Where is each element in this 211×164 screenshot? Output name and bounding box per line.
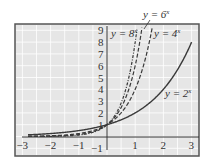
label-8x: y = 8x [110,27,138,39]
y-tick-label: 6 [98,60,104,72]
x-tick-label: −2 [45,139,57,151]
x-tick-label: 1 [132,139,138,151]
y-tick-label: 7 [98,48,104,60]
label-6x: y = 6x [142,8,170,20]
y-tick-label: 3 [98,95,104,107]
label-2x: y = 2x [164,87,192,99]
x-tick-label: −1 [73,139,85,151]
label-4x: y = 4x [153,27,181,39]
y-tick-label: 2 [98,107,104,119]
y-tick-label: 4 [98,83,104,95]
y-tick-label: −1 [91,142,103,154]
y-tick-label: 9 [98,24,104,36]
x-tick-label: 2 [160,139,166,151]
x-tick-label: −3 [16,139,28,151]
y-tick-label: 5 [98,72,104,84]
exponential-functions-chart: −3−2−1123−1123456789 y = 8x y = 6x y = 4… [0,0,211,164]
y-tick-label: 1 [98,119,104,131]
x-tick-label: 3 [189,139,195,151]
y-tick-label: 8 [98,36,104,48]
